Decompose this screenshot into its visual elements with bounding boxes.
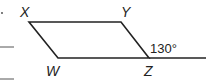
margin-dot <box>1 12 3 14</box>
parallelogram-diagram: X Y Z W 130° <box>0 0 213 81</box>
angle-label-130: 130° <box>150 41 177 56</box>
vertex-label-z: Z <box>143 63 153 79</box>
vertex-label-y: Y <box>121 4 132 20</box>
vertex-label-w: W <box>46 63 61 79</box>
vertex-label-x: X <box>19 4 30 20</box>
parallelogram-xyzw <box>29 22 149 58</box>
